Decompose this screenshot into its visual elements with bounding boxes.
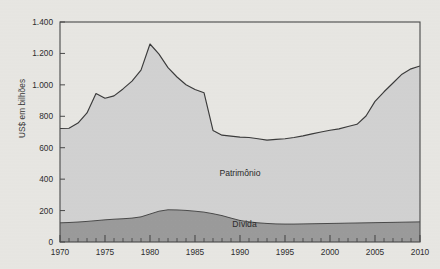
y-tick-label: 400: [39, 174, 53, 184]
area-chart-plot: 02004006008001.0001.2001.400 19701975198…: [0, 0, 440, 269]
chart-areas: [60, 44, 420, 242]
x-tick-label: 1990: [231, 247, 250, 257]
series-annotation-dívida: Dívida: [232, 219, 257, 229]
chart-figure: US$ em bilhões 02004006008001.0001.2001.…: [0, 0, 440, 269]
x-axis-tick-labels: 197019751980198519901995200020052010: [51, 247, 430, 257]
x-tick-label: 2010: [411, 247, 430, 257]
y-tick-label: 0: [48, 237, 53, 247]
series-annotation-patrimônio: Patrimônio: [219, 168, 260, 178]
y-tick-label: 1.000: [32, 80, 53, 90]
x-tick-label: 1970: [51, 247, 70, 257]
x-tick-label: 1995: [276, 247, 295, 257]
y-tick-label: 1.200: [32, 48, 53, 58]
y-tick-label: 800: [39, 111, 53, 121]
x-tick-label: 2005: [366, 247, 385, 257]
x-tick-label: 1985: [186, 247, 205, 257]
area-patrimonio: [60, 44, 420, 224]
x-tick-label: 2000: [321, 247, 340, 257]
x-tick-label: 1975: [96, 247, 115, 257]
x-tick-label: 1980: [141, 247, 160, 257]
y-tick-label: 1.400: [32, 17, 53, 27]
y-axis-tick-labels: 02004006008001.0001.2001.400: [32, 17, 53, 247]
y-tick-label: 600: [39, 143, 53, 153]
y-tick-label: 200: [39, 206, 53, 216]
